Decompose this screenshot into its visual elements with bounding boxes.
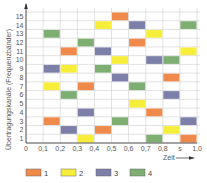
x-axis-label: Zeit [163,154,175,161]
x-tick-label: 0,5 [107,145,117,152]
channel-block [112,56,128,64]
channel-block [78,109,94,117]
blocks [44,13,197,143]
y-tick-label: 3 [20,118,24,125]
channel-block [129,100,145,108]
legend-label: 4 [148,169,152,178]
channel-block [61,126,77,134]
channel-block [44,30,60,38]
channel-block [44,65,60,73]
x-tick-label: 0,7 [141,145,151,152]
legend-swatch [61,169,76,176]
y-tick-label: 1 [20,135,24,142]
y-tick-label: 14 [16,22,24,29]
x-tick-label: 0,2 [55,145,65,152]
channel-block [78,82,94,90]
channel-block [61,65,77,73]
channel-block [180,135,196,143]
x-axis-arrow-icon [189,156,195,159]
legend-label: 1 [44,169,48,178]
channel-block [163,56,179,64]
channel-block [163,74,179,82]
channel-block [61,47,77,55]
channel-block [180,21,196,29]
x-tick-label: 1,0 [192,145,202,152]
legend-label: 2 [79,169,83,178]
y-axis-label: Übertragungskanäle (Frequenzbänder) [5,29,13,150]
channel-block [95,47,111,55]
legend-swatch [96,169,111,176]
channel-block [163,126,179,134]
x-tick-label: 0 [24,145,28,152]
channel-block [112,117,128,125]
y-tick-label: 2 [20,126,24,133]
channel-block [146,135,162,143]
y-tick-label: 9 [20,65,24,72]
legend-swatch [130,169,145,176]
channel-block [129,21,145,29]
channel-block [78,135,94,143]
channel-block [112,13,128,21]
x-tick-label: 0,1 [38,145,48,152]
x-tick-label: 0,8 [158,145,168,152]
x-tick-label: 0,6 [124,145,134,152]
legend-swatch [26,169,41,176]
x-tick-label: s [178,145,182,152]
y-tick-label: 7 [20,83,24,90]
channel-time-chart: 00,10,20,30,40,50,60,70,8s1,0 1234567891… [0,0,207,183]
channel-block [180,47,196,55]
y-tick-labels: 123456789101112131415 [16,13,24,142]
channel-block [95,21,111,29]
x-tick-label: 0,4 [90,145,100,152]
y-tick-label: 12 [16,39,24,46]
channel-block [146,30,162,38]
channel-block [163,91,179,99]
channel-block [61,91,77,99]
channel-block [44,117,60,125]
x-tick-labels: 00,10,20,30,40,50,60,70,8s1,0 [24,145,202,152]
y-tick-label: 4 [20,109,24,116]
channel-block [129,39,145,47]
y-tick-label: 10 [16,56,24,63]
legend: 1234 [26,169,152,178]
y-tick-label: 13 [16,30,24,37]
y-tick-label: 15 [16,13,24,20]
channel-block [146,109,162,117]
y-axis-arrow-icon [24,3,28,9]
channel-block [44,82,60,90]
legend-label: 3 [114,169,118,178]
y-tick-label: 5 [20,100,24,107]
channel-block [112,74,128,82]
channel-block [95,126,111,134]
channel-block [146,56,162,64]
channel-block [95,65,111,73]
channel-block [129,82,145,90]
y-tick-label: 8 [20,74,24,81]
x-tick-label: 0,3 [72,145,82,152]
y-tick-label: 6 [20,91,24,98]
channel-block [78,39,94,47]
channel-block [180,117,196,125]
y-tick-label: 11 [16,48,23,55]
